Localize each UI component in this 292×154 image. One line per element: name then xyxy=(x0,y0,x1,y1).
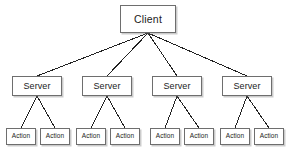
node-action-6[interactable]: Action xyxy=(184,128,214,145)
edge-server-4-to-action-8 xyxy=(247,96,269,128)
node-server-1[interactable]: Server xyxy=(12,76,62,96)
node-server-4[interactable]: Server xyxy=(222,76,272,96)
node-label-action-6: Action xyxy=(190,133,208,140)
edge-server-2-to-action-3 xyxy=(91,96,107,128)
tree-diagram: ClientServerServerServerServerActionActi… xyxy=(0,0,292,154)
node-label-action-8: Action xyxy=(260,133,278,140)
node-action-2[interactable]: Action xyxy=(40,128,70,145)
node-action-7[interactable]: Action xyxy=(220,128,250,145)
edge-server-3-to-action-5 xyxy=(165,96,177,128)
node-label-action-3: Action xyxy=(82,133,100,140)
edge-server-2-to-action-4 xyxy=(107,96,125,128)
edge-server-4-to-action-7 xyxy=(235,96,247,128)
node-label-server-4: Server xyxy=(233,81,260,90)
node-label-action-4: Action xyxy=(116,133,134,140)
node-label-action-5: Action xyxy=(156,133,174,140)
node-label-server-1: Server xyxy=(23,81,50,90)
edge-client-to-server-2 xyxy=(107,33,148,76)
node-action-8[interactable]: Action xyxy=(254,128,284,145)
node-label-action-2: Action xyxy=(46,133,64,140)
node-action-5[interactable]: Action xyxy=(150,128,180,145)
node-label-server-2: Server xyxy=(93,81,120,90)
edge-server-1-to-action-2 xyxy=(37,96,55,128)
edge-server-3-to-action-6 xyxy=(177,96,199,128)
node-server-3[interactable]: Server xyxy=(152,76,202,96)
node-action-1[interactable]: Action xyxy=(6,128,36,145)
node-label-client: Client xyxy=(134,13,162,24)
edge-client-to-server-1 xyxy=(37,33,148,76)
node-server-2[interactable]: Server xyxy=(82,76,132,96)
edge-server-1-to-action-1 xyxy=(21,96,37,128)
node-client[interactable]: Client xyxy=(120,5,176,33)
node-label-action-7: Action xyxy=(226,133,244,140)
node-action-3[interactable]: Action xyxy=(76,128,106,145)
node-label-server-3: Server xyxy=(163,81,190,90)
node-label-action-1: Action xyxy=(12,133,30,140)
node-action-4[interactable]: Action xyxy=(110,128,140,145)
